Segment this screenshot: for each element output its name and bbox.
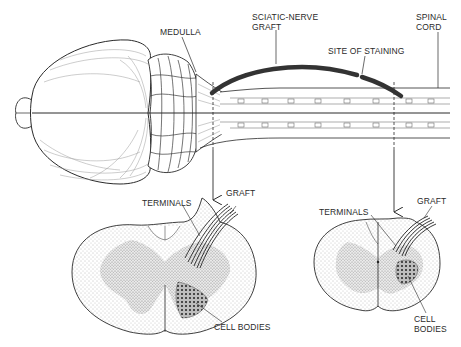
brain bbox=[16, 40, 222, 184]
label-sciatic-nerve-graft-line1: SCIATIC-NERVE bbox=[252, 12, 318, 22]
staining-leader bbox=[362, 56, 365, 74]
label-cell-bodies-left: CELL BODIES bbox=[214, 322, 271, 332]
cross-section-left bbox=[72, 198, 256, 334]
label-cell-bodies-right-line2: BODIES bbox=[414, 324, 447, 334]
label-spinal-cord-line2: CORD bbox=[416, 22, 441, 32]
label-graft-right: GRAFT bbox=[417, 196, 446, 206]
label-medulla: MEDULLA bbox=[160, 27, 201, 37]
label-sciatic-nerve-graft-line2: GRAFT bbox=[252, 22, 281, 32]
cross-section-right bbox=[314, 206, 440, 313]
label-spinal-cord-line1: SPINAL bbox=[416, 12, 447, 22]
label-terminals-left: TERMINALS bbox=[142, 198, 192, 208]
label-terminals-right: TERMINALS bbox=[319, 207, 369, 217]
label-graft-left: GRAFT bbox=[226, 188, 255, 198]
label-cell-bodies-right-line1: CELL bbox=[414, 314, 436, 324]
label-site-of-staining: SITE OF STAINING bbox=[328, 46, 405, 56]
